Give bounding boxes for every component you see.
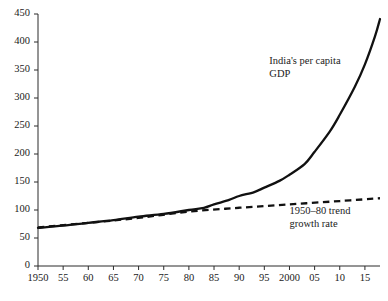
y-tick-label: 0	[25, 259, 30, 270]
x-tick-label: 70	[133, 272, 144, 283]
y-axis-tick-group: 050100150200250300350400450	[14, 7, 38, 270]
annotation-label: growth rate	[289, 218, 337, 229]
y-tick-label: 250	[14, 119, 30, 130]
annotation-label: India's per capita	[269, 55, 341, 66]
y-tick-label: 150	[14, 175, 30, 186]
x-tick-label: 10	[335, 272, 346, 283]
x-tick-label: 05	[309, 272, 320, 283]
annotation-label: 1950–80 trend	[289, 205, 351, 216]
x-tick-label: 85	[209, 272, 220, 283]
x-tick-label: 75	[158, 272, 169, 283]
y-tick-label: 100	[14, 203, 30, 214]
x-tick-label: 65	[108, 272, 119, 283]
y-tick-label: 50	[20, 231, 31, 242]
x-tick-label: 95	[259, 272, 270, 283]
x-tick-label: 2000	[279, 272, 300, 283]
y-tick-label: 350	[14, 63, 30, 74]
x-tick-label: 15	[360, 272, 371, 283]
x-tick-label: 90	[234, 272, 245, 283]
y-tick-label: 300	[14, 91, 30, 102]
annotation-group: India's per capitaGDP1950–80 trendgrowth…	[269, 55, 351, 229]
x-tick-label: 80	[184, 272, 195, 283]
y-tick-label: 200	[14, 147, 30, 158]
y-tick-label: 450	[14, 7, 30, 18]
india-per-capita-gdp-line	[38, 19, 380, 228]
y-tick-label: 400	[14, 35, 30, 46]
chart-container: 050100150200250300350400450 195055606570…	[0, 0, 388, 301]
annotation-label: GDP	[269, 68, 290, 79]
x-tick-label: 60	[83, 272, 94, 283]
x-axis-tick-group: 19505560657075808590952000051015	[28, 266, 371, 283]
line-chart: 050100150200250300350400450 195055606570…	[0, 0, 388, 301]
x-tick-label: 55	[58, 272, 69, 283]
x-tick-label: 1950	[28, 272, 49, 283]
